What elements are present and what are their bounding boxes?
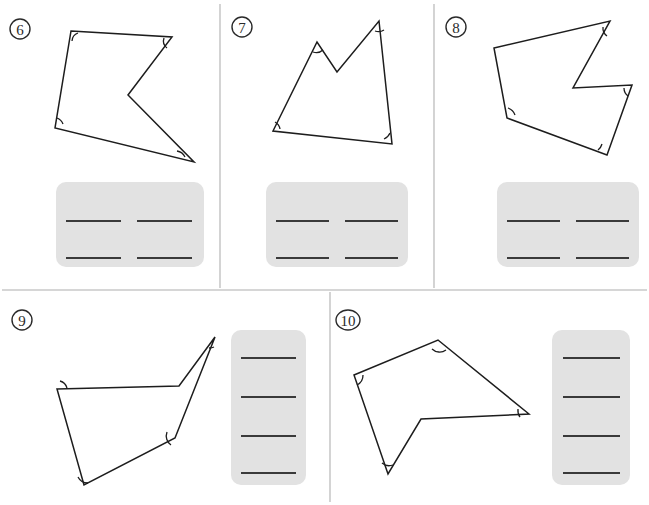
- problem-number-badge-10: 10: [336, 310, 360, 330]
- problem-10: 10: [336, 310, 630, 485]
- worksheet-canvas: 678910: [0, 0, 649, 505]
- problem-number-text-8: 8: [452, 20, 460, 36]
- worksheet-page: 678910: [0, 0, 649, 505]
- problem-number-text-6: 6: [16, 22, 24, 38]
- problem-number-text-10: 10: [341, 313, 356, 329]
- problem-9: 9: [12, 310, 306, 485]
- answer-box-7: [266, 182, 408, 267]
- answer-box-background-9: [231, 330, 306, 485]
- answer-box-8: [497, 182, 639, 267]
- polygon-shape-6: [55, 31, 194, 162]
- problem-number-text-9: 9: [18, 313, 26, 329]
- answer-box-background-10: [552, 330, 630, 485]
- problem-7: 7: [232, 17, 408, 267]
- problem-number-text-7: 7: [238, 20, 246, 36]
- problem-number-badge-8: 8: [446, 17, 466, 37]
- angle-marker-9-1: [60, 381, 67, 388]
- answer-box-background-7: [266, 182, 408, 267]
- problem-number-badge-6: 6: [10, 19, 30, 39]
- polygon-shape-10: [354, 340, 529, 474]
- answer-box-10: [552, 330, 630, 485]
- problem-6: 6: [10, 19, 204, 267]
- problem-number-badge-7: 7: [232, 17, 252, 37]
- problem-number-badge-9: 9: [12, 310, 32, 330]
- problem-8: 8: [446, 17, 639, 267]
- answer-box-background-8: [497, 182, 639, 267]
- polygon-shape-7: [273, 21, 392, 144]
- answer-box-9: [231, 330, 306, 485]
- polygon-shape-8: [494, 21, 632, 155]
- polygon-shape-9: [57, 337, 215, 485]
- problems-group: 678910: [10, 17, 639, 485]
- answer-box-background-6: [56, 182, 204, 267]
- answer-box-6: [56, 182, 204, 267]
